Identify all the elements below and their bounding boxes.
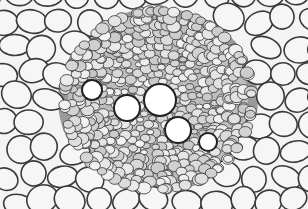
plant-tissue-image bbox=[0, 0, 308, 209]
micrograph bbox=[0, 0, 308, 209]
